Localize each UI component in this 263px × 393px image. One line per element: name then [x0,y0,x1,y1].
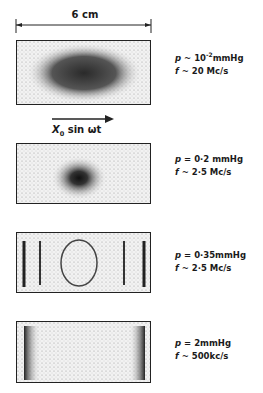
conditions-panel-1: p ~ 10-2mmHg f ~ 20 Mc/s [175,48,244,78]
striations-ring-icon [17,233,151,293]
motion-label: X0 sin ωt [52,124,101,138]
conditions-panel-2: p = 0·2 mmHg f ~ 2·5 Mc/s [175,153,243,179]
discharge-panel-4 [16,321,151,383]
discharge-panel-1 [16,40,151,105]
discharge-panel-3 [16,232,151,293]
edge-bands-icon [17,322,151,383]
conditions-panel-4: p = 2mmHg f ~ 500kc/s [175,337,231,363]
central-spot-icon [17,144,151,204]
motion-arrow-icon [50,114,116,124]
elliptical-cloud-icon [17,41,151,105]
conditions-panel-3: p = 0·35mmHg f ~ 2·5 Mc/s [175,249,246,275]
dimension-arrow-icon [14,19,154,33]
discharge-panel-2 [16,143,151,204]
